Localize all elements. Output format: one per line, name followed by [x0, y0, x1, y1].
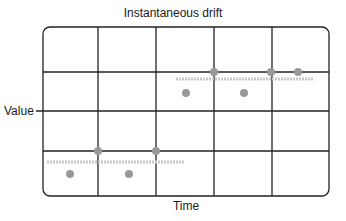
horizontal-gridlines: [36, 72, 329, 151]
data-point: [294, 68, 302, 76]
data-point: [182, 89, 190, 97]
data-point: [152, 147, 160, 155]
data-point: [210, 68, 218, 76]
data-point: [94, 147, 102, 155]
data-point: [240, 89, 248, 97]
drift-diagram: [0, 0, 346, 221]
data-point: [125, 170, 133, 178]
data-point: [267, 68, 275, 76]
data-point: [66, 170, 74, 178]
